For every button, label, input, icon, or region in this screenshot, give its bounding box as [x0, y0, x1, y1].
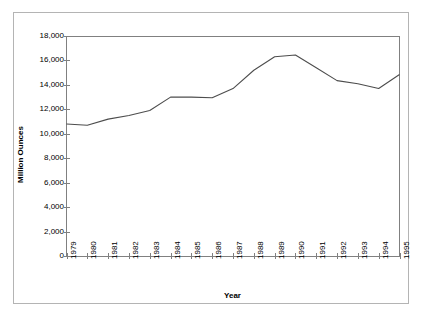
y-tick-label: 8,000	[44, 154, 64, 162]
data-series-line	[67, 55, 400, 125]
chart-plot-svg	[0, 0, 431, 326]
x-tick-label: 1983	[153, 241, 161, 259]
y-tick-label: 14,000	[40, 81, 64, 89]
y-tick-label: 16,000	[40, 56, 64, 64]
x-tick-label: 1984	[174, 241, 182, 259]
axis-tick-marks	[64, 37, 401, 260]
x-tick-label: 1980	[90, 241, 98, 259]
x-tick-label: 1979	[70, 241, 78, 259]
x-tick-label: 1987	[236, 241, 244, 259]
y-tick-label: 6,000	[44, 179, 64, 187]
y-axis-title: Million Ounces	[16, 126, 25, 183]
plot-axes	[66, 36, 400, 257]
x-tick-label: 1991	[319, 241, 327, 259]
x-tick-label: 1992	[340, 241, 348, 259]
y-tick-label: 0	[60, 252, 64, 260]
x-tick-label: 1981	[111, 241, 119, 259]
x-tick-label: 1985	[194, 241, 202, 259]
x-tick-label: 1990	[298, 241, 306, 259]
x-tick-label: 1982	[132, 241, 140, 259]
x-tick-label: 1988	[257, 241, 265, 259]
x-tick-label: 1986	[215, 241, 223, 259]
y-tick-label: 2,000	[44, 228, 64, 236]
x-axis-title: Year	[64, 291, 401, 300]
line-chart: 18,00016,00014,00012,00010,0008,0006,000…	[0, 0, 431, 326]
x-tick-label: 1995	[403, 241, 411, 259]
x-tick-label: 1989	[278, 241, 286, 259]
y-tick-label: 12,000	[40, 105, 64, 113]
y-tick-label: 4,000	[44, 203, 64, 211]
x-tick-label: 1993	[361, 241, 369, 259]
y-tick-label: 18,000	[40, 32, 64, 40]
x-tick-label: 1994	[382, 241, 390, 259]
chart-screenshot: 18,00016,00014,00012,00010,0008,0006,000…	[0, 0, 431, 326]
y-tick-label: 10,000	[40, 130, 64, 138]
